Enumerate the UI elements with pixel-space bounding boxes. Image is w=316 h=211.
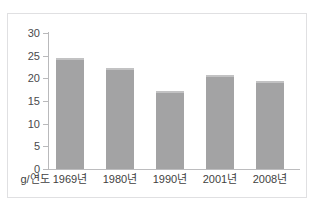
- x-axis-line: [48, 169, 300, 170]
- bar: [56, 58, 84, 169]
- x-axis-label: 2001년: [194, 174, 246, 185]
- clipped-caption-text: ​ ​ ​ ​ ​ ​ ​ ​ ​ ​ ​ ​: [8, 0, 55, 3]
- y-axis-label: 15: [8, 96, 40, 107]
- bar: [206, 75, 234, 169]
- y-axis-label: 5: [8, 141, 40, 152]
- clipped-caption-strip: ​ ​ ​ ​ ​ ​ ​ ​ ​ ​ ​ ​: [0, 0, 316, 11]
- y-axis-tick: [43, 124, 49, 125]
- y-axis-label: 10: [8, 119, 40, 130]
- chart-frame: 0510152025301969년1980년1990년2001년2008년g/연…: [7, 13, 307, 198]
- y-axis-label: 30: [8, 28, 40, 39]
- y-axis-tick: [43, 78, 49, 79]
- x-axis-label: 1990년: [144, 174, 196, 185]
- x-axis-unit-label: g/연도: [12, 174, 58, 185]
- bar: [106, 68, 134, 169]
- y-axis-label: 20: [8, 73, 40, 84]
- x-axis-label: 2008년: [244, 174, 296, 185]
- y-axis-tick: [43, 169, 49, 170]
- y-axis-tick: [43, 56, 49, 57]
- bar: [256, 81, 284, 169]
- y-axis-tick: [43, 33, 49, 34]
- bar: [156, 91, 184, 169]
- plot-area: 0510152025301969년1980년1990년2001년2008년g/연…: [8, 14, 308, 199]
- y-axis-label: 25: [8, 51, 40, 62]
- chart-screenshot: ​ ​ ​ ​ ​ ​ ​ ​ ​ ​ ​ ​ 0510152025301969…: [0, 0, 316, 211]
- y-axis-tick: [43, 146, 49, 147]
- x-axis-label: 1980년: [94, 174, 146, 185]
- y-axis-tick: [43, 101, 49, 102]
